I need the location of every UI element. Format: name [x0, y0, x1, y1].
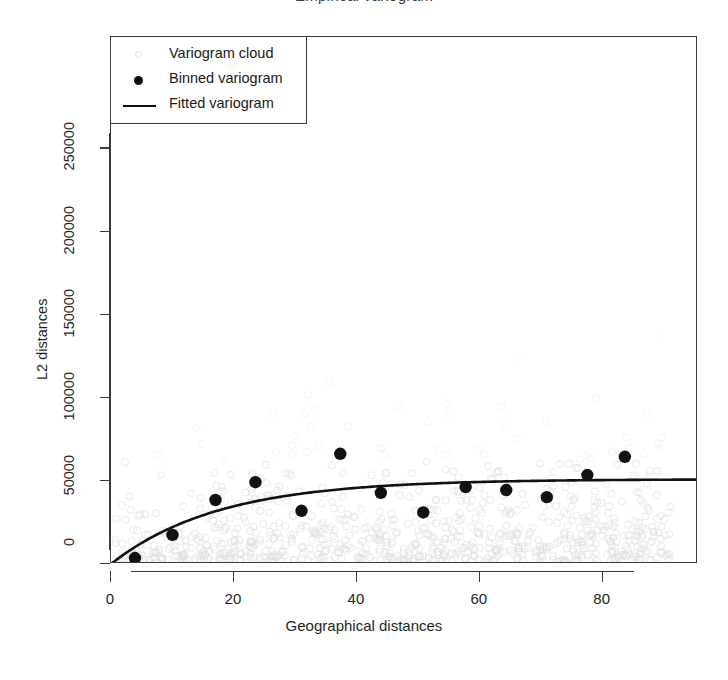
legend-label: Variogram cloud: [169, 45, 274, 61]
line-icon: [111, 93, 167, 118]
x-tick: [356, 571, 357, 582]
y-tick: [100, 231, 110, 232]
chart-canvas: Empirical variogram 05000010000015000020…: [0, 0, 728, 680]
legend-item-variogram-cloud: Variogram cloud: [111, 43, 308, 68]
y-tick-label: 200000: [61, 206, 77, 301]
binned-point: [249, 476, 261, 488]
legend-label: Binned variogram: [169, 70, 283, 86]
filled-circle-icon: [111, 68, 167, 93]
chart-title: Empirical variogram: [0, 0, 728, 4]
binned-point: [500, 484, 512, 496]
y-tick: [100, 563, 110, 564]
x-tick: [479, 571, 480, 582]
y-tick-label: 100000: [61, 372, 77, 467]
binned-point: [459, 481, 471, 493]
open-circle-icon: [111, 43, 167, 68]
legend-item-binned-variogram: Binned variogram: [111, 68, 308, 93]
x-tick: [110, 571, 111, 582]
binned-point: [129, 552, 141, 563]
binned-point: [166, 529, 178, 541]
binned-point: [209, 494, 221, 506]
y-tick: [100, 397, 110, 398]
binned-point: [334, 448, 346, 460]
binned-point: [581, 469, 593, 481]
x-tick-label: 40: [326, 590, 386, 607]
binned-point: [417, 506, 429, 518]
y-axis-title: L2 distances: [34, 299, 50, 380]
y-tick-label: 250000: [61, 122, 77, 217]
legend-item-fitted-variogram: Fitted variogram: [111, 93, 308, 118]
chart-legend: Variogram cloud Binned variogram Fitted …: [110, 36, 307, 124]
x-axis-title: Geographical distances: [0, 617, 728, 634]
x-tick-label: 0: [80, 590, 140, 607]
y-tick: [100, 314, 110, 315]
x-tick-label: 20: [203, 590, 263, 607]
x-tick: [602, 571, 603, 582]
x-tick-label: 60: [449, 590, 509, 607]
binned-point: [295, 505, 307, 517]
x-tick-label: 80: [572, 590, 632, 607]
x-tick: [233, 571, 234, 582]
x-axis-line: [131, 571, 634, 572]
binned-point: [375, 487, 387, 499]
y-tick-label: 50000: [61, 455, 77, 550]
binned-point: [541, 491, 553, 503]
y-tick: [100, 147, 110, 148]
legend-label: Fitted variogram: [169, 95, 274, 111]
y-tick: [100, 480, 110, 481]
binned-point: [619, 451, 631, 463]
y-tick-label: 150000: [61, 289, 77, 384]
